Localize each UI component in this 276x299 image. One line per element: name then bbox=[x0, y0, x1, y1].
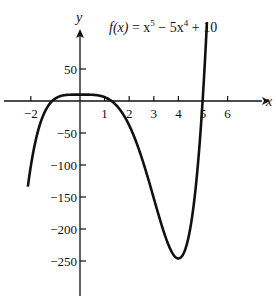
y-tick-label: −50 bbox=[57, 126, 77, 141]
y-axis-label: y bbox=[74, 10, 83, 25]
title-tail: + 10 bbox=[188, 20, 217, 35]
ticks: −212345650−50−100−150−200−250 bbox=[24, 62, 231, 269]
title-eq: = x bbox=[128, 20, 150, 35]
y-tick-label: −150 bbox=[50, 190, 77, 205]
x-tick-label: 3 bbox=[151, 106, 158, 121]
x-tick-label: 6 bbox=[224, 106, 231, 121]
title-mid: − 5x bbox=[155, 20, 184, 35]
x-tick-label: 4 bbox=[175, 106, 182, 121]
x-tick-label: 1 bbox=[101, 106, 108, 121]
y-tick-label: −250 bbox=[50, 254, 77, 269]
title-fx: f(x) bbox=[109, 20, 129, 36]
function-plot: −212345650−50−100−150−200−250 y x f(x) =… bbox=[0, 0, 276, 299]
y-tick-label: 50 bbox=[64, 62, 77, 77]
y-tick-label: −200 bbox=[50, 222, 77, 237]
chart-title: f(x) = x5 − 5x4 + 10 bbox=[109, 18, 217, 36]
x-axis-label: x bbox=[265, 94, 273, 109]
axes bbox=[4, 29, 270, 296]
x-tick-label: −2 bbox=[24, 106, 38, 121]
y-tick-label: −100 bbox=[50, 158, 77, 173]
